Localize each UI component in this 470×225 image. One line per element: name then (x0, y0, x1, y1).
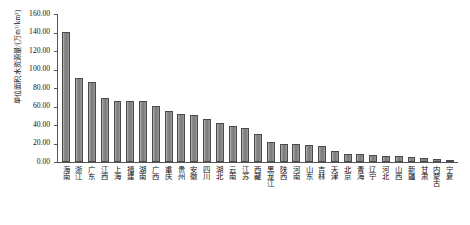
bar-slot (252, 14, 265, 162)
bar-slot (124, 14, 137, 162)
y-axis-ticks: 160.00140.00120.00100.0080.0060.0040.002… (0, 14, 57, 162)
x-axis-label: 吉林 (317, 165, 325, 211)
x-label-slot: 云南 (225, 165, 238, 211)
bar-slot (431, 14, 444, 162)
bar[interactable] (152, 106, 160, 162)
bar[interactable] (292, 144, 300, 162)
y-tick-label: 20.00 (33, 138, 50, 147)
bar-slot (149, 14, 162, 162)
bar-slot (239, 14, 252, 162)
x-axis-label: 广西 (151, 165, 159, 211)
bar[interactable] (331, 151, 339, 162)
bar[interactable] (446, 160, 454, 162)
bar-slot (328, 14, 341, 162)
bar[interactable] (88, 82, 96, 162)
x-axis-label: 甘肃 (419, 165, 427, 211)
bar[interactable] (344, 154, 352, 162)
bar[interactable] (369, 155, 377, 162)
x-label-slot: 吉林 (315, 165, 328, 211)
bar[interactable] (229, 126, 237, 162)
x-label-slot: 河南 (289, 165, 302, 211)
x-label-slot: 湖北 (212, 165, 225, 211)
x-axis-label: 黑龙江 (266, 165, 274, 211)
x-axis-label: 辽宁 (368, 165, 376, 211)
bar[interactable] (408, 157, 416, 162)
bar-slot (201, 14, 214, 162)
bar-slot (316, 14, 329, 162)
bar[interactable] (177, 114, 185, 162)
x-label-slot: 重庆 (161, 165, 174, 211)
x-axis-label: 江西 (100, 165, 108, 211)
bar[interactable] (126, 101, 134, 162)
x-axis-label: 云南 (228, 165, 236, 211)
bar[interactable] (318, 146, 326, 162)
bar[interactable] (395, 156, 403, 162)
bar[interactable] (433, 159, 441, 162)
bar-slot (290, 14, 303, 162)
bar-slot (213, 14, 226, 162)
bar-slot (175, 14, 188, 162)
x-axis-label: 福建 (126, 165, 134, 211)
x-axis-labels: 海南浙江广东江西上海福建湖南广西重庆贵州安徽四川湖北云南江苏西藏黑龙江陕西河南山… (57, 165, 457, 211)
x-axis-label: 宁夏 (445, 165, 453, 211)
bar[interactable] (382, 156, 390, 162)
bar[interactable] (267, 142, 275, 162)
x-label-slot: 上海 (110, 165, 123, 211)
bar[interactable] (114, 101, 122, 162)
bar[interactable] (280, 144, 288, 163)
bar[interactable] (190, 115, 198, 162)
bar-chart: 单位面积水资源量/(万m³/km²) 160.00140.00120.00100… (0, 0, 470, 225)
x-label-slot: 宁夏 (442, 165, 455, 211)
bar[interactable] (216, 123, 224, 162)
bar[interactable] (203, 119, 211, 162)
bar[interactable] (241, 128, 249, 162)
x-axis-label: 河北 (381, 165, 389, 211)
bar-slot (392, 14, 405, 162)
x-axis-label: 西藏 (253, 165, 261, 211)
bar[interactable] (254, 134, 262, 162)
x-axis-label: 安徽 (189, 165, 197, 211)
x-label-slot: 河北 (379, 165, 392, 211)
bar-slot (265, 14, 278, 162)
x-label-slot: 内蒙古 (430, 165, 443, 211)
bar-slot (226, 14, 239, 162)
bar-slot (303, 14, 316, 162)
y-tick-label: 60.00 (33, 101, 50, 110)
x-axis-label: 四川 (202, 165, 210, 211)
x-axis-label: 江苏 (241, 165, 249, 211)
x-axis-label: 湖南 (138, 165, 146, 211)
x-axis-label: 湖北 (215, 165, 223, 211)
bar-slot (73, 14, 86, 162)
x-axis-label: 山西 (394, 165, 402, 211)
x-axis-label: 北京 (343, 165, 351, 211)
x-axis-label: 海南 (62, 165, 70, 211)
x-axis-label: 陕西 (279, 165, 287, 211)
x-label-slot: 天津 (327, 165, 340, 211)
bar-slot (60, 14, 73, 162)
x-axis-label: 上海 (113, 165, 121, 211)
bar[interactable] (420, 158, 428, 162)
bar[interactable] (75, 78, 83, 162)
bar-slot (162, 14, 175, 162)
x-label-slot: 江西 (97, 165, 110, 211)
bar[interactable] (356, 154, 364, 162)
bar-slot (418, 14, 431, 162)
bar[interactable] (305, 145, 313, 162)
bar-slot (405, 14, 418, 162)
bar[interactable] (62, 32, 70, 162)
x-label-slot: 广西 (148, 165, 161, 211)
x-axis-label: 浙江 (74, 165, 82, 211)
x-axis-label: 青海 (356, 165, 364, 211)
bar[interactable] (165, 111, 173, 162)
x-axis-label: 天津 (330, 165, 338, 211)
bar[interactable] (139, 101, 147, 162)
bar[interactable] (101, 98, 109, 162)
x-label-slot: 湖南 (136, 165, 149, 211)
x-label-slot: 西藏 (251, 165, 264, 211)
x-label-slot: 安徽 (187, 165, 200, 211)
y-tick-label: 0.00 (37, 157, 50, 166)
bar-slot (137, 14, 150, 162)
bar-slot (367, 14, 380, 162)
x-label-slot: 辽宁 (366, 165, 379, 211)
bar-slot (86, 14, 99, 162)
